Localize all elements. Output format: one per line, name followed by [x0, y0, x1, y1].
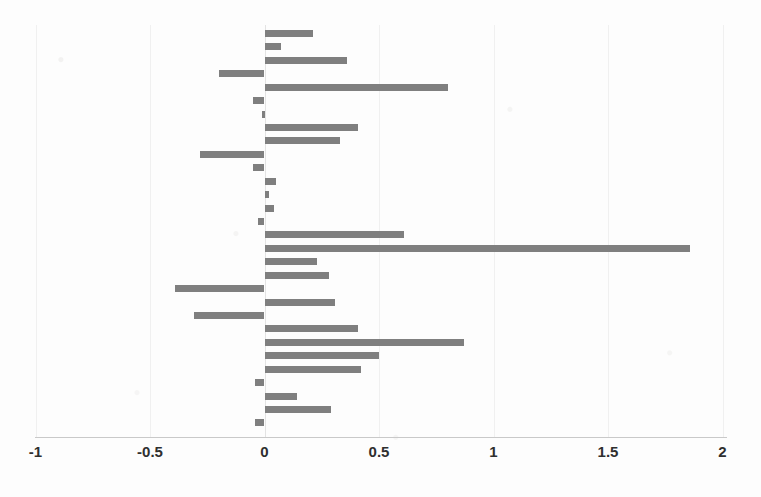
gridline: [494, 25, 495, 437]
bar: [265, 352, 380, 359]
gridline: [723, 25, 724, 437]
x-axis-tick-label: 1.5: [598, 443, 619, 460]
bar: [200, 151, 264, 158]
bar: [265, 205, 274, 212]
bar: [265, 84, 448, 91]
bar: [265, 339, 464, 346]
bar: [265, 30, 313, 37]
gridline: [36, 25, 37, 437]
bar: [255, 419, 264, 426]
bar: [265, 178, 276, 185]
bar: [265, 325, 359, 332]
x-axis-tick-label: 0: [260, 443, 268, 460]
bar: [265, 393, 297, 400]
x-axis-line: [35, 437, 727, 438]
bar: [219, 70, 265, 77]
x-axis-tick-label: -1: [29, 443, 42, 460]
bar: [265, 43, 281, 50]
x-axis-tick-label: -0.5: [137, 443, 163, 460]
bar: [265, 406, 331, 413]
plot-area: [0, 0, 761, 440]
x-axis-tick-label: 1: [489, 443, 497, 460]
bar: [265, 137, 341, 144]
bar: [265, 258, 318, 265]
bar: [253, 164, 264, 171]
gridline: [608, 25, 609, 437]
bar: [262, 111, 265, 118]
bar: [265, 57, 347, 64]
bar: [194, 312, 265, 319]
x-axis-tick-labels: -1-0.500.511.52: [0, 443, 761, 473]
bar: [265, 272, 329, 279]
x-axis-tick-label: 0.5: [369, 443, 390, 460]
gridline: [150, 25, 151, 437]
x-axis-tick-label: 2: [718, 443, 726, 460]
bar: [265, 299, 336, 306]
bar: [255, 379, 264, 386]
bar-chart-figure: -1-0.500.511.52: [0, 0, 761, 497]
bar: [175, 285, 264, 292]
bar: [265, 191, 270, 198]
bar: [258, 218, 265, 225]
bar: [265, 231, 405, 238]
bar: [253, 97, 264, 104]
bar: [265, 124, 359, 131]
bar: [265, 366, 361, 373]
bar: [265, 245, 691, 252]
